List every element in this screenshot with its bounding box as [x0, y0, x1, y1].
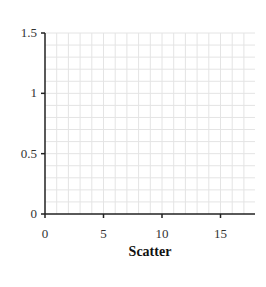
- y-tick-label: 0.5: [21, 146, 37, 161]
- x-tick-label: 0: [42, 226, 49, 241]
- y-tick-label: 1: [31, 85, 38, 100]
- y-tick-label: 0: [31, 206, 38, 221]
- y-tick-label: 1.5: [21, 25, 37, 40]
- x-axis-ticks: 051015: [42, 214, 227, 241]
- x-tick-label: 10: [156, 226, 169, 241]
- scatter-chart: 00.511.5 051015 Scatter: [0, 0, 266, 287]
- chart-title: Scatter: [129, 244, 172, 259]
- y-axis-ticks: 00.511.5: [21, 25, 45, 221]
- x-tick-label: 5: [100, 226, 107, 241]
- grid-lines: [45, 33, 255, 214]
- x-tick-label: 15: [214, 226, 227, 241]
